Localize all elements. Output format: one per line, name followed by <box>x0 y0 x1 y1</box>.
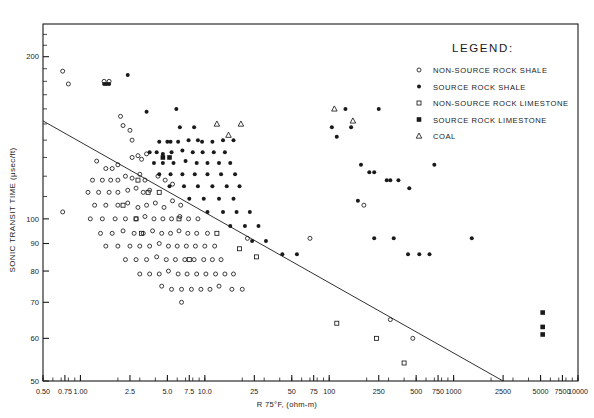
data-point <box>128 244 132 248</box>
data-point <box>417 252 421 256</box>
y-tick-label: 80 <box>31 267 39 276</box>
data-point <box>157 140 161 144</box>
data-point <box>191 150 195 154</box>
y-tick-label: 50 <box>31 377 39 386</box>
data-point <box>411 336 415 340</box>
data-point <box>470 236 474 240</box>
data-point <box>152 161 156 165</box>
data-point <box>145 110 149 114</box>
data-point <box>187 138 191 142</box>
open-triangle-icon <box>416 133 422 138</box>
data-point <box>540 310 545 315</box>
data-point <box>166 244 170 248</box>
series-1 <box>102 73 474 256</box>
data-point <box>178 125 182 129</box>
data-point <box>168 184 172 188</box>
data-point <box>192 258 196 262</box>
data-point <box>402 361 406 365</box>
legend-item-4[interactable]: COAL <box>416 132 456 141</box>
data-point <box>432 163 436 167</box>
x-tick-label: 2.5 <box>125 387 135 396</box>
data-point <box>97 190 101 194</box>
data-point <box>228 224 232 228</box>
data-point <box>280 252 284 256</box>
data-point <box>335 135 339 139</box>
data-point <box>148 150 152 154</box>
legend-item-0[interactable]: NON-SOURCE ROCK SHALE <box>417 66 548 75</box>
data-point <box>193 244 197 248</box>
data-point <box>107 190 111 194</box>
data-point <box>157 172 161 176</box>
data-point <box>121 203 125 207</box>
legend-item-label: NON-SOURCE ROCK SHALE <box>433 66 548 75</box>
data-point <box>130 155 134 159</box>
data-point <box>202 258 206 262</box>
data-point <box>359 163 363 167</box>
data-point <box>186 231 190 235</box>
data-point <box>201 150 205 154</box>
data-point <box>223 150 227 154</box>
data-point <box>183 258 187 262</box>
data-point <box>170 287 174 291</box>
data-point <box>205 231 209 235</box>
legend: LEGEND:NON-SOURCE ROCK SHALESOURCE ROCK … <box>416 42 568 141</box>
y-tick-label: 90 <box>31 239 39 248</box>
data-point <box>372 236 376 240</box>
data-point <box>151 229 155 233</box>
data-point <box>308 236 312 240</box>
data-point <box>174 107 178 111</box>
data-point <box>235 210 239 214</box>
data-point <box>134 258 138 262</box>
x-axis: 0.500.751.002.55.07.510.0255075100250500… <box>36 375 588 396</box>
data-point <box>143 215 147 219</box>
data-point <box>256 224 260 228</box>
data-point <box>155 255 159 259</box>
open-circle-icon <box>417 68 421 72</box>
data-point <box>195 272 199 276</box>
data-point <box>164 258 168 262</box>
trendline <box>43 121 503 381</box>
data-point <box>170 150 174 154</box>
legend-item-label: COAL <box>433 132 456 141</box>
data-point <box>377 107 381 111</box>
data-point <box>219 172 223 176</box>
x-tick-label: 0.75 <box>58 387 72 396</box>
data-point <box>189 287 193 291</box>
data-point <box>225 184 229 188</box>
y-tick-label: 200 <box>26 52 39 61</box>
data-point <box>184 244 188 248</box>
legend-item-3[interactable]: SOURCE ROCK LIMESTONE <box>417 116 547 125</box>
legend-item-label: SOURCE ROCK LIMESTONE <box>433 116 547 125</box>
data-point <box>356 199 360 203</box>
data-point <box>172 161 176 165</box>
data-point <box>179 203 183 207</box>
data-point <box>126 201 130 205</box>
data-point <box>202 197 206 201</box>
data-point <box>200 140 204 144</box>
data-point <box>233 172 237 176</box>
data-point <box>196 217 200 221</box>
data-point <box>171 199 175 203</box>
data-point <box>231 197 235 201</box>
scatter-plot: 0.500.751.002.55.07.510.0255075100250500… <box>0 0 594 418</box>
data-point <box>116 203 120 207</box>
legend-title: LEGEND: <box>452 42 514 54</box>
data-point <box>540 325 545 330</box>
legend-item-1[interactable]: SOURCE ROCK SHALE <box>417 83 526 92</box>
data-point <box>396 178 400 182</box>
x-tick-label: 10000 <box>568 387 588 396</box>
data-point <box>332 106 338 111</box>
data-point <box>362 203 366 207</box>
data-point <box>182 184 186 188</box>
data-point <box>160 284 164 288</box>
data-point <box>180 148 184 152</box>
y-tick-label: 60 <box>31 334 39 343</box>
y-tick-label: 70 <box>31 298 39 307</box>
data-point <box>161 155 166 160</box>
legend-item-2[interactable]: NON-SOURCE ROCK LIMESTONE <box>417 99 569 108</box>
data-point <box>187 217 191 221</box>
data-point <box>145 258 149 262</box>
data-point <box>195 231 199 235</box>
data-point <box>210 140 214 144</box>
data-point <box>88 217 92 221</box>
